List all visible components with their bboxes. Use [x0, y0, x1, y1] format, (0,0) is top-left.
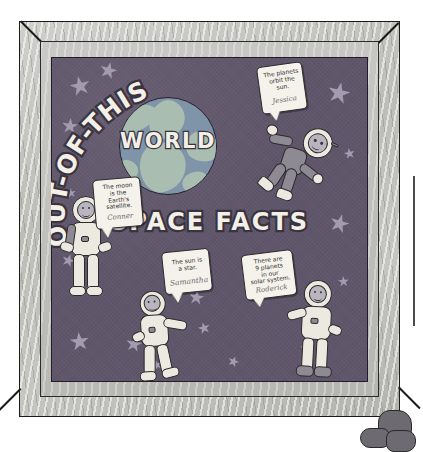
astronaut-boot	[86, 286, 103, 296]
astronaut-eye	[82, 207, 84, 209]
astronaut-smile	[148, 304, 156, 311]
astronaut-smile	[82, 211, 90, 217]
note-signature: Jessica	[263, 93, 306, 107]
photo-scene: WORLD OUT-OF-THIS SPACE FACTS	[0, 0, 423, 452]
astronaut-chest-patch	[148, 327, 155, 333]
astronaut-chest-patch	[310, 318, 318, 324]
note-signature: Conner	[98, 211, 143, 223]
note-sun-star: The sun is a star. Samantha	[161, 248, 213, 296]
astronaut-leg	[87, 254, 99, 290]
astronaut-boot	[314, 366, 333, 378]
astronaut-eye	[320, 141, 323, 144]
astronaut-standing-center	[133, 288, 195, 384]
astronaut-eye	[88, 207, 90, 209]
astronaut-eye	[148, 301, 150, 303]
astronaut-chest-patch	[81, 236, 89, 242]
note-planets-orbit: The planets orbit the sun. Jessica	[256, 61, 308, 115]
note-nine-planets: There are 9 planets in our solar system.…	[240, 249, 297, 301]
astronaut-eye	[320, 291, 323, 294]
astronaut-boot	[296, 365, 315, 377]
astronaut-leg	[73, 254, 85, 290]
astronaut-eye	[154, 300, 156, 302]
astronaut-smile	[314, 295, 322, 301]
note-moon-satellite: The moon is the Earth's satellite. Conne…	[92, 176, 144, 230]
frame-miter-bottom-left	[0, 388, 21, 410]
note-signature: Samantha	[167, 275, 212, 289]
astronaut-boot	[69, 286, 86, 296]
title-world: WORLD	[119, 129, 217, 153]
astronaut-eye	[313, 291, 316, 294]
frame-miter-bottom-right	[398, 387, 420, 409]
bubble-tail	[253, 297, 266, 308]
note-text: The planets orbit the sun.	[260, 67, 304, 93]
astronaut-eye	[313, 138, 316, 141]
foreground-object-part	[386, 430, 416, 452]
bubble-tail	[171, 292, 184, 304]
note-text: The moon is the Earth's satellite.	[95, 181, 141, 212]
astronaut-boot	[139, 371, 157, 382]
background-edge-line	[413, 176, 415, 326]
bubble-tail	[101, 227, 114, 239]
foreground-object	[360, 410, 423, 452]
bubble-tail	[269, 110, 281, 121]
note-text: The sun is a star.	[165, 256, 210, 274]
astronaut-visor	[77, 201, 95, 219]
